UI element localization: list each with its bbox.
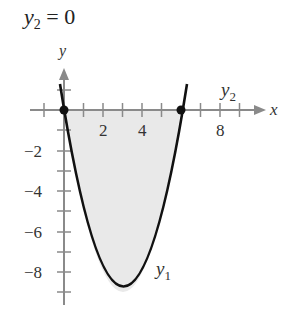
intersection-point-origin [60,106,69,115]
y-tick-label-neg2: −2 [24,142,42,161]
graph: 2 4 8 −2 −4 −6 −8 x y y2 y1 [0,0,294,312]
intersection-point-six [177,106,186,115]
curve-label-y2: y2 [219,79,236,104]
x-axis-label: x [269,100,278,119]
x-tick-label-2: 2 [99,121,108,140]
x-tick-label-8: 8 [216,121,225,140]
x-tick-label-4: 4 [138,121,147,140]
y-tick-label-neg4: −4 [24,182,43,201]
curve-label-y1: y1 [154,258,171,283]
y-tick-label-neg6: −6 [24,223,42,242]
y-tick-label-neg8: −8 [24,263,42,282]
y-axis-label: y [57,42,67,60]
x-axis-arrow-icon [254,105,266,115]
y-axis-arrow-icon [59,68,69,80]
